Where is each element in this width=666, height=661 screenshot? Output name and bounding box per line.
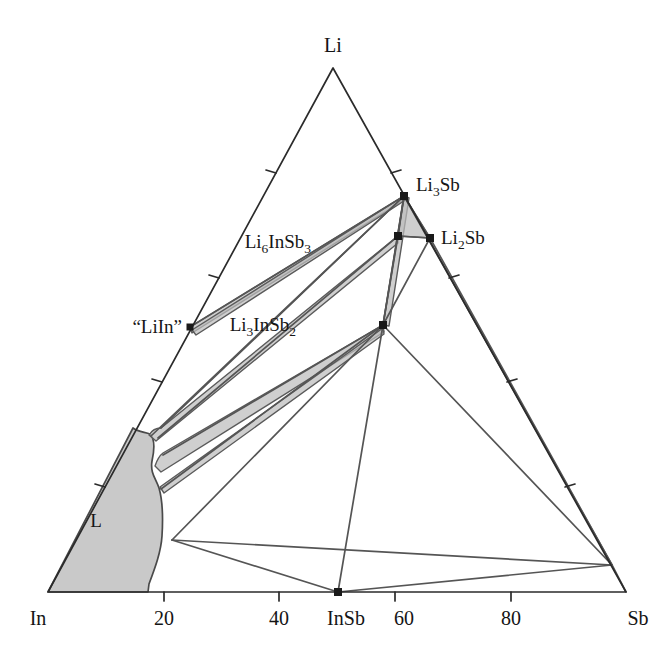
- compound-label-li2sb: Li2Sb: [441, 227, 485, 252]
- region-label-liquid: L: [90, 510, 102, 531]
- tie-line-li2sb-sb: [430, 238, 612, 565]
- compound-label-li3sb: Li3Sb: [416, 174, 460, 199]
- point-marker-li2sb: [427, 235, 434, 242]
- li3insb2-mid: InSb: [253, 314, 289, 335]
- corner-label-sb: Sb: [627, 607, 648, 629]
- tick-left-80: [266, 170, 276, 173]
- corner-label-li: Li: [324, 34, 342, 56]
- li2sb-main: Li: [441, 227, 458, 248]
- point-marker-li6insb3: [395, 233, 402, 240]
- li3insb2-sub2: 2: [289, 324, 296, 339]
- li3insb2-main: Li: [230, 314, 247, 335]
- bottom-tick-label-40: 40: [269, 607, 289, 629]
- compound-label-li6insb3: Li6InSb3: [245, 231, 312, 256]
- li2sb-sub: 2: [458, 237, 465, 252]
- li6insb3-mid: InSb: [268, 231, 304, 252]
- bottom-tick-label-60: 60: [394, 607, 414, 629]
- li3sb-tail: Sb: [440, 174, 460, 195]
- compound-label-liin: “LiIn”: [132, 316, 182, 337]
- tick-right-80: [391, 170, 401, 173]
- two-phase-field-li3sb-fan: [192, 196, 404, 335]
- phase-diagram-figure: Li In Sb 20 40 InSb 60 80 Li3Sb Li2Sb Li…: [0, 0, 666, 661]
- point-marker-li3sb: [401, 193, 408, 200]
- li2sb-tail: Sb: [465, 227, 485, 248]
- bottom-tick-label-20: 20: [154, 607, 174, 629]
- corner-label-in: In: [30, 607, 47, 629]
- li3sb-main: Li: [416, 174, 433, 195]
- tick-left-60: [209, 275, 219, 278]
- li6insb3-sub2: 3: [304, 241, 311, 256]
- liquid-region-shade: [48, 428, 163, 592]
- tick-left-40: [152, 379, 162, 382]
- li6insb3-main: Li: [245, 231, 262, 252]
- tie-lines-lower: [172, 540, 626, 592]
- right-axis-ticks: [391, 170, 575, 487]
- tie-line-insb-sb: [338, 565, 612, 592]
- point-marker-li3insb2: [380, 322, 387, 329]
- point-marker-insb: [335, 589, 342, 596]
- point-marker-liin: [187, 324, 193, 330]
- ternary-phase-diagram-canvas: Li In Sb 20 40 InSb 60 80 Li3Sb Li2Sb Li…: [0, 0, 666, 661]
- bottom-tick-label-80: 80: [501, 607, 521, 629]
- bottom-tick-label-insb: InSb: [327, 607, 365, 629]
